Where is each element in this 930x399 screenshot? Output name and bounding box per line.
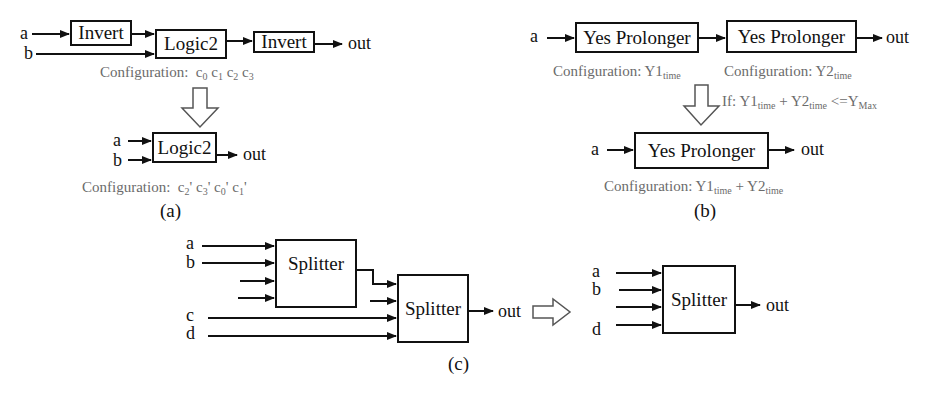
input-label-a: a — [20, 24, 28, 42]
output-label: out — [498, 302, 521, 320]
input-label-c: c — [186, 306, 194, 324]
config-text-a-top: Configuration: c0 c1 c2 c3 — [100, 64, 254, 85]
splitter-block-merged: Splitter — [662, 265, 736, 334]
caption-c: (c) — [448, 353, 469, 375]
caption-a: (a) — [160, 200, 181, 222]
input-label-d: d — [186, 324, 195, 342]
transform-arrow-right-c — [533, 299, 570, 325]
logic2-block: Logic2 — [155, 29, 227, 59]
transform-arrow-down-b — [684, 85, 719, 125]
input-label-b: b — [186, 253, 195, 271]
input-label-b: b — [113, 151, 122, 169]
output-label: out — [801, 140, 824, 158]
output-label: out — [348, 34, 371, 52]
output-label: out — [766, 296, 789, 314]
yes-prolonger-block-merged: Yes Prolonger — [634, 132, 769, 169]
config-text-a-bottom: Configuration: c2' c3' c0' c1' — [82, 179, 247, 200]
caption-b: (b) — [694, 200, 716, 222]
config-text-y1: Configuration: Y1time — [553, 63, 681, 84]
input-label-a: a — [186, 234, 194, 252]
splitter-block-1: Splitter — [275, 239, 357, 308]
config-text-merged: Configuration: Y1time + Y2time — [604, 178, 783, 199]
logic2-block-merged: Logic2 — [152, 132, 217, 163]
merge-condition-text: If: Y1time + Y2time <=YMax — [722, 93, 877, 114]
yes-prolonger-block-2: Yes Prolonger — [726, 20, 857, 53]
invert-block-1: Invert — [70, 20, 132, 46]
input-label-a: a — [530, 27, 538, 45]
input-label-d: d — [592, 320, 601, 338]
output-label: out — [243, 145, 266, 163]
transform-arrow-down-a — [182, 88, 218, 127]
invert-block-2: Invert — [253, 31, 315, 53]
input-label-a: a — [113, 131, 121, 149]
input-label-b: b — [592, 280, 601, 298]
output-label: out — [886, 28, 909, 46]
input-label-a: a — [591, 140, 599, 158]
input-label-b: b — [24, 44, 33, 62]
yes-prolonger-block-1: Yes Prolonger — [575, 22, 699, 53]
config-text-y2: Configuration: Y2time — [724, 63, 852, 84]
input-label-a: a — [592, 262, 600, 280]
splitter-block-2: Splitter — [397, 274, 469, 343]
